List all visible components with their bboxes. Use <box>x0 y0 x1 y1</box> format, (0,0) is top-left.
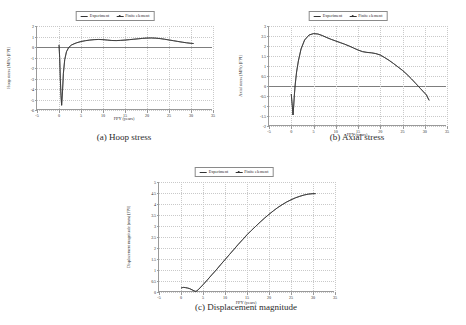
x-axis-tick-label: 30 <box>423 129 427 134</box>
legend-label: Finite element <box>244 169 268 175</box>
y-axis-title: Axial stress (MPa) [FPI] <box>238 55 243 96</box>
chart-c: ExperimentFinite element54.543.532.521.5… <box>118 160 350 322</box>
x-axis-title: FPY (years) <box>114 116 135 121</box>
x-axis-tick-label: 20 <box>145 113 149 118</box>
plot-area-a: 210-1-2-3-4-5-6-505101520253035 <box>36 26 212 110</box>
x-axis-tick-label: -5 <box>35 113 38 118</box>
x-axis-tick-label: 0 <box>180 295 182 300</box>
legend-label: Experiment <box>323 13 343 19</box>
y-axis-tick-label: 3.5 <box>151 213 156 218</box>
legend-line-icon <box>349 16 356 17</box>
legend-entry-finite-element: Finite element <box>349 13 382 19</box>
y-axis-tick-label: 4.5 <box>151 191 156 196</box>
figure-caption-c: (c) Displacement magnitude <box>195 302 297 312</box>
chart-a: ExperimentFinite element210-1-2-3-4-5-6-… <box>2 4 228 150</box>
series-line-experiment <box>181 194 316 292</box>
series-layer-b <box>269 26 447 126</box>
legend-entry-experiment: Experiment <box>200 169 229 175</box>
legend-label: Experiment <box>90 13 110 19</box>
y-axis-tick-label: 2 <box>264 44 266 49</box>
legend-entry-finite-element: Finite element <box>235 169 268 175</box>
plot-area-b: 32.521.510.50-0.5-1-1.5-2-50510152025303… <box>268 26 446 126</box>
series-line-finite-element <box>181 194 316 292</box>
x-axis-tick-label: 10 <box>223 295 227 300</box>
x-axis-tick-label: 30 <box>189 113 193 118</box>
legend-line-icon <box>314 16 321 17</box>
legend-entry-experiment: Experiment <box>314 13 343 19</box>
y-axis-tick-label: 4 <box>154 202 156 207</box>
y-axis-tick-label: -2 <box>31 66 34 71</box>
y-axis-tick-label: -2 <box>263 124 266 129</box>
y-axis-tick-label: 0 <box>264 84 266 89</box>
x-axis-tick-label: 10 <box>101 113 105 118</box>
legend-entry-experiment: Experiment <box>81 13 110 19</box>
y-axis-tick-label: -1.5 <box>260 114 266 119</box>
legend-label: Experiment <box>209 169 229 175</box>
series-line-experiment <box>291 34 429 115</box>
legend-b: ExperimentFinite element <box>309 11 388 21</box>
y-axis-tick-label: 2 <box>32 24 34 29</box>
gridline-vertical <box>335 182 336 291</box>
x-axis-tick-label: 35 <box>211 113 215 118</box>
y-axis-tick-label: 5 <box>154 180 156 185</box>
y-axis-tick-label: 2 <box>154 246 156 251</box>
y-axis-tick-label: 0 <box>154 290 156 295</box>
figure-panel-a: ExperimentFinite element210-1-2-3-4-5-6-… <box>2 4 228 150</box>
legend-label: Finite element <box>358 13 382 19</box>
figure-panel-b: ExperimentFinite element32.521.510.50-0.… <box>232 4 464 150</box>
series-line-finite-element <box>59 38 194 105</box>
y-axis-tick-label: 1 <box>32 34 34 39</box>
x-axis-tick-label: 35 <box>333 295 337 300</box>
x-axis-tick-label: 5 <box>312 129 314 134</box>
x-axis-tick-label: 5 <box>202 295 204 300</box>
series-layer-a <box>37 26 213 110</box>
y-axis-title: Hoop stress (MPa) [FPI] <box>6 47 11 88</box>
y-axis-tick-label: -4 <box>31 87 34 92</box>
legend-line-icon <box>116 16 123 17</box>
x-axis-tick-label: -5 <box>267 129 270 134</box>
y-axis-tick-label: -5 <box>31 97 34 102</box>
y-axis-tick-label: 0 <box>32 45 34 50</box>
y-axis-tick-label: 1 <box>154 268 156 273</box>
y-axis-tick-label: -0.5 <box>260 94 266 99</box>
legend-line-icon <box>235 172 242 173</box>
x-axis-tick-label: 25 <box>167 113 171 118</box>
series-layer-c <box>159 182 335 292</box>
x-axis-tick-label: 5 <box>80 113 82 118</box>
y-axis-tick-label: 3 <box>264 24 266 29</box>
legend-line-icon <box>81 16 88 17</box>
legend-c: ExperimentFinite element <box>195 167 274 177</box>
figure-caption-a: (a) Hoop stress <box>97 132 152 142</box>
x-axis-tick-label: 30 <box>311 295 315 300</box>
x-axis-tick-label: 25 <box>289 295 293 300</box>
legend-a: ExperimentFinite element <box>76 11 155 21</box>
x-axis-tick-label: -5 <box>157 295 160 300</box>
x-axis-tick-label: 35 <box>445 129 449 134</box>
legend-label: Finite element <box>125 13 149 19</box>
legend-entry-finite-element: Finite element <box>116 13 149 19</box>
y-axis-tick-label: -1 <box>263 104 266 109</box>
y-axis-tick-label: -3 <box>31 76 34 81</box>
y-axis-tick-label: 2.5 <box>261 34 266 39</box>
x-axis-tick-label: 0 <box>58 113 60 118</box>
y-axis-tick-label: 0.5 <box>151 279 156 284</box>
y-axis-tick-label: 1.5 <box>261 54 266 59</box>
figure-caption-b: (b) Axial stress <box>330 132 385 142</box>
series-line-finite-element <box>291 34 429 115</box>
y-axis-tick-label: 3 <box>154 224 156 229</box>
y-axis-tick-label: -1 <box>31 55 34 60</box>
chart-b: ExperimentFinite element32.521.510.50-0.… <box>232 4 464 150</box>
y-axis-title: Displacement magnitude (mm) [FPI] <box>126 206 131 268</box>
legend-line-icon <box>200 172 207 173</box>
y-axis-tick-label: 0.5 <box>261 74 266 79</box>
y-axis-tick-label: 1 <box>264 64 266 69</box>
y-axis-tick-label: -6 <box>31 108 34 113</box>
plot-area-c: 54.543.532.521.510.50-505101520253035 <box>158 182 334 292</box>
x-axis-tick-label: 25 <box>400 129 404 134</box>
figure-panel-c: ExperimentFinite element54.543.532.521.5… <box>118 160 350 322</box>
gridline-vertical <box>447 26 448 125</box>
y-axis-tick-label: 1.5 <box>151 257 156 262</box>
x-axis-tick-label: 20 <box>267 295 271 300</box>
y-axis-tick-label: 2.5 <box>151 235 156 240</box>
series-line-experiment <box>59 38 194 105</box>
